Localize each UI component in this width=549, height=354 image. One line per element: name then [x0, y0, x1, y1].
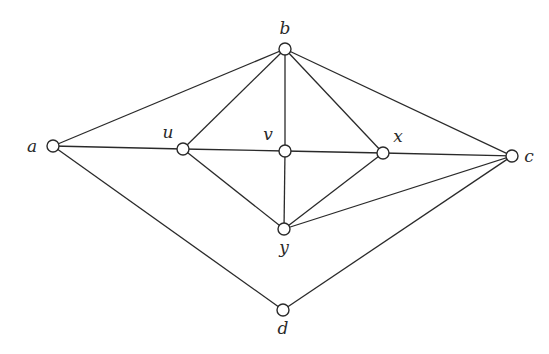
- edge-x-y: [284, 153, 383, 229]
- node-label-a: a: [27, 136, 37, 156]
- node-a: [47, 140, 59, 152]
- edge-u-v: [183, 149, 285, 151]
- node-label-y: y: [278, 237, 289, 257]
- node-label-x: x: [393, 126, 403, 146]
- node-label-d: d: [278, 318, 289, 338]
- edge-b-x: [285, 49, 383, 153]
- node-b: [279, 43, 291, 55]
- edge-x-c: [383, 153, 512, 156]
- node-c: [506, 150, 518, 162]
- node-x: [377, 147, 389, 159]
- edge-v-x: [285, 151, 383, 153]
- node-v: [279, 145, 291, 157]
- label-layer: abcuvxyd: [27, 18, 534, 338]
- edge-y-c: [284, 156, 512, 229]
- edge-a-d: [53, 146, 283, 310]
- graph-diagram: abcuvxyd: [0, 0, 549, 354]
- edge-d-c: [283, 156, 512, 310]
- edge-v-y: [284, 151, 285, 229]
- node-d: [277, 304, 289, 316]
- node-y: [278, 223, 290, 235]
- edge-layer: [53, 49, 512, 310]
- edge-u-y: [183, 149, 284, 229]
- node-label-u: u: [163, 122, 174, 142]
- node-label-v: v: [263, 124, 273, 144]
- edge-a-u: [53, 146, 183, 149]
- node-u: [177, 143, 189, 155]
- node-label-c: c: [524, 146, 534, 166]
- node-label-b: b: [280, 18, 291, 38]
- node-layer: [47, 43, 518, 316]
